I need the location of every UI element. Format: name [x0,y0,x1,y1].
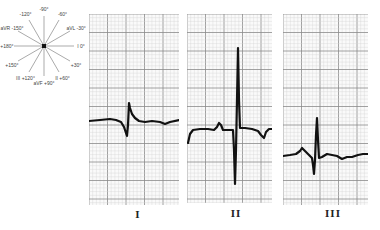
axis-line [44,46,59,72]
ecg-lead-ii-strip [187,14,272,203]
hexaxial-reference-diagram: -90°-120°-60°aVR -150°aVL -30°+180°I 0°+… [0,0,90,92]
axis-line [29,20,44,46]
axis-angle-label: -90° [39,6,48,12]
axis-line [44,20,59,46]
axis-angle-label: +30° [71,62,81,68]
ecg-lead-i-strip [89,14,179,205]
lead-i-label: I [135,208,140,220]
lead-ii-label: II [231,207,242,219]
grid-paper [89,14,179,205]
axis-line [29,46,44,72]
ecg-lead-iii-strip [283,14,368,205]
axis-angle-label: III +120° [16,75,35,81]
axis-angle-label: I 0° [77,43,85,49]
axis-angle-label: II +60° [55,75,70,81]
axis-line [44,31,70,46]
axis-line [18,31,44,46]
grid-paper [187,14,272,203]
axis-angle-label: -60° [58,11,67,17]
axis-angle-label: aVL -30° [66,25,85,31]
axis-angle-label: aVF +90° [33,80,54,86]
grid-paper [283,14,368,205]
axis-angle-label: +180° [0,43,13,49]
axis-line [44,46,70,61]
axis-angle-label: aVR -150° [0,25,23,31]
axis-center-marker [42,44,46,48]
axis-angle-label: -120° [19,11,31,17]
axis-angle-label: +150° [5,62,18,68]
axis-line [18,46,44,61]
lead-iii-label: III [325,207,341,219]
